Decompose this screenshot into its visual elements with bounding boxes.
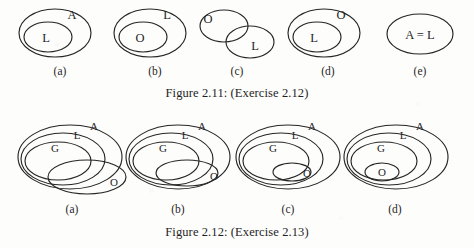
figure-2-12-panel-label-c: (c) bbox=[282, 203, 295, 215]
set-label-A: A bbox=[90, 120, 98, 132]
set-ellipse-L bbox=[226, 26, 274, 58]
set-ellipse-L bbox=[129, 133, 213, 185]
set-label-G: G bbox=[377, 142, 385, 154]
figure-2-11-panel-label-b: (b) bbox=[148, 65, 161, 77]
set-ellipse-L bbox=[114, 9, 186, 57]
figure-2-11-panel-b: LO bbox=[114, 8, 186, 57]
figure-2-11-panel-label-a: (a) bbox=[54, 65, 67, 77]
set-label-L: L bbox=[163, 8, 171, 22]
figure-2-11-panel-d: OL bbox=[288, 8, 360, 57]
set-label-L: L bbox=[292, 129, 299, 141]
figure-2-12-panel-c: ALGO bbox=[236, 120, 340, 189]
set-ellipse-L bbox=[21, 133, 105, 185]
set-ellipse-L bbox=[347, 133, 431, 185]
set-label-A: A bbox=[67, 8, 76, 22]
set-label-O: O bbox=[378, 166, 386, 178]
figure-2-11-panel-label-d: (d) bbox=[321, 65, 334, 77]
figure-2-12-panel-d: ALGO bbox=[344, 120, 448, 189]
set-label-G: G bbox=[51, 142, 59, 154]
set-label-G: G bbox=[269, 142, 277, 154]
figure-2-12-panel-label-b: (b) bbox=[171, 203, 184, 215]
set-label-O: O bbox=[110, 176, 118, 188]
figure-2-11-panel-label-e: (e) bbox=[414, 65, 427, 77]
set-label-L: L bbox=[251, 39, 259, 53]
set-ellipse-A bbox=[19, 9, 91, 57]
figure-2-12-panel-a: ALGO bbox=[18, 120, 126, 194]
set-label-L: L bbox=[400, 129, 407, 141]
set-ellipse-O bbox=[156, 160, 218, 186]
set-ellipse-A bbox=[236, 125, 340, 189]
set-label-L: L bbox=[182, 129, 189, 141]
set-label-A: A bbox=[198, 120, 206, 132]
figure-page: ALLOOLOLA = LALGOALGOALGOALGO (a) (b) (c… bbox=[0, 0, 474, 248]
set-ellipse-A bbox=[344, 125, 448, 189]
figure-2-12-caption: Figure 2.12: (Exercise 2.13) bbox=[0, 225, 474, 240]
set-label-O: O bbox=[336, 8, 345, 22]
set-label-A: A bbox=[308, 120, 316, 132]
figure-2-11-caption: Figure 2.11: (Exercise 2.12) bbox=[0, 86, 474, 101]
set-label-O: O bbox=[135, 31, 144, 45]
set-ellipse-O bbox=[288, 9, 360, 57]
set-label-L: L bbox=[310, 31, 318, 45]
figure-2-12-panel-b: ALGO bbox=[126, 120, 230, 189]
set-label-O: O bbox=[303, 167, 311, 179]
figure-2-12-panel-label-a: (a) bbox=[66, 203, 79, 215]
figure-2-11-panel-e: A = L bbox=[387, 14, 453, 54]
figure-2-11-panel-a: AL bbox=[19, 8, 91, 57]
set-label-O: O bbox=[203, 12, 212, 26]
set-label-L: L bbox=[74, 129, 81, 141]
set-label-A=L: A = L bbox=[405, 28, 434, 42]
set-label-A: A bbox=[416, 120, 424, 132]
figure-2-12-panel-label-d: (d) bbox=[388, 203, 401, 215]
set-label-O: O bbox=[210, 170, 218, 182]
set-label-G: G bbox=[159, 142, 167, 154]
set-label-L: L bbox=[42, 31, 50, 45]
figure-2-11-panel-label-c: (c) bbox=[231, 65, 244, 77]
set-ellipse-A bbox=[18, 125, 122, 189]
figure-2-11-panel-c: OL bbox=[200, 10, 274, 58]
